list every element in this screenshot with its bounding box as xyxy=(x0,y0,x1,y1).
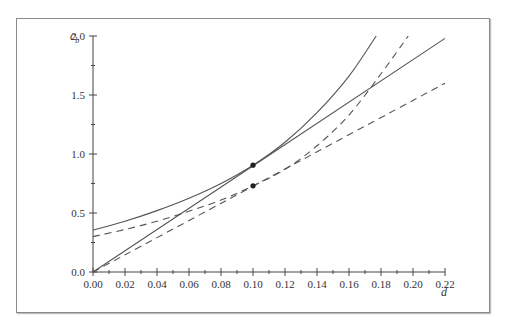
x-tick-label: 0.06 xyxy=(179,278,199,290)
line-chart: 0.000.020.040.060.080.100.120.140.160.18… xyxy=(0,0,507,330)
chart-series xyxy=(93,36,445,272)
solid-tangent-line-line xyxy=(93,38,445,272)
x-tick-label: 0.10 xyxy=(243,278,263,290)
dashed-curve-line xyxy=(93,36,408,237)
x-tick-label: 0.18 xyxy=(371,278,391,290)
x-tick-label: 0.08 xyxy=(211,278,231,290)
y-tick-label: 1.5 xyxy=(71,89,85,101)
x-tick-label: 0.02 xyxy=(115,278,134,290)
tangent-points xyxy=(250,163,255,189)
x-tick-label: 0.00 xyxy=(83,278,103,290)
tangent-point-marker xyxy=(250,183,255,188)
tangent-point-marker xyxy=(250,163,255,168)
y-tick-label: 1.0 xyxy=(71,148,85,160)
x-tick-label: 0.16 xyxy=(339,278,359,290)
solid-curve-line xyxy=(93,36,376,230)
x-axis-label: d xyxy=(441,285,448,299)
x-tick-label: 0.04 xyxy=(147,278,167,290)
x-tick-label: 0.14 xyxy=(307,278,327,290)
x-tick-label: 0.12 xyxy=(275,278,294,290)
axes: 0.000.020.040.060.080.100.120.140.160.18… xyxy=(71,30,454,290)
y-tick-label: 0.0 xyxy=(71,266,85,278)
x-tick-label: 0.20 xyxy=(403,278,423,290)
y-tick-label: 0.5 xyxy=(71,207,85,219)
